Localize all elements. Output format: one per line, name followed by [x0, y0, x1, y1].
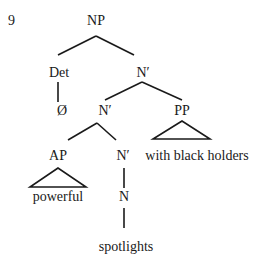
node-np: NP: [87, 13, 105, 28]
edge-np-det: [58, 36, 96, 55]
triangle-ap: [30, 168, 86, 187]
edge-nbar-nbar-low: [97, 123, 116, 140]
node-null-determiner: Ø: [57, 103, 67, 118]
node-det: Det: [49, 65, 69, 80]
edge-np-nbar: [96, 36, 134, 55]
node-ap: AP: [49, 148, 67, 163]
triangle-pp: [153, 121, 210, 139]
leaf-n-text: spotlights: [99, 239, 153, 254]
syntax-tree: 9 NP Det Ø N′ N′ PP with black holders A…: [0, 0, 264, 264]
node-nbar-mid: N′: [98, 103, 111, 118]
edge-nbar-nbar: [105, 82, 142, 100]
node-pp: PP: [174, 103, 190, 118]
leaf-pp-text: with black holders: [145, 148, 248, 163]
example-number: 9: [8, 13, 15, 28]
node-nbar-low: N′: [116, 148, 129, 163]
node-nbar-top: N′: [136, 65, 149, 80]
edge-nbar-ap: [68, 123, 97, 140]
leaf-ap-text: powerful: [33, 189, 84, 204]
node-n: N: [119, 189, 129, 204]
edge-nbar-pp: [142, 82, 182, 100]
